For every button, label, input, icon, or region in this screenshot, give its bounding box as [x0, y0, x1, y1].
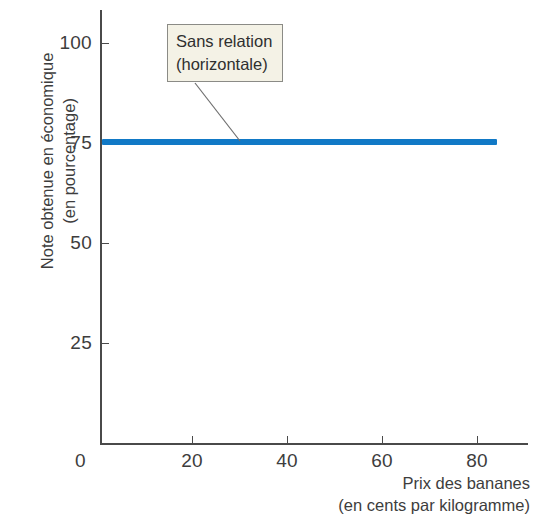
x-tick-label-80: 80	[466, 450, 488, 472]
y-tick-mark-50	[100, 243, 109, 244]
y-axis-title: Note obtenue en économique (en pourcenta…	[37, 0, 81, 326]
y-axis-line	[100, 10, 102, 445]
x-tick-mark-60	[382, 436, 383, 445]
y-tick-label-25: 25	[70, 332, 92, 354]
x-tick-mark-20	[192, 436, 193, 445]
x-tick-label-40: 40	[276, 450, 298, 472]
x-axis-title: Prix des bananes (en cents par kilogramm…	[240, 473, 530, 517]
x-axis-title-line-2: (en cents par kilogramme)	[240, 495, 530, 517]
x-tick-label-20: 20	[181, 450, 203, 472]
annotation-callout-no-relation: Sans relation (horizontale)	[167, 24, 283, 82]
annotation-line-2: (horizontale)	[176, 53, 274, 76]
series-line-sans-relation	[102, 139, 497, 145]
scatter-plot-figure: 100 75 50 25 0 20 40 60 80 Note obtenue …	[0, 0, 544, 518]
x-tick-label-60: 60	[371, 450, 393, 472]
x-axis-line	[100, 443, 528, 445]
y-axis-title-line-1: Note obtenue en économique	[37, 0, 59, 326]
y-tick-mark-25	[100, 343, 109, 344]
x-axis-title-line-1: Prix des bananes	[240, 473, 530, 495]
x-tick-mark-80	[477, 436, 478, 445]
x-tick-mark-40	[287, 436, 288, 445]
x-tick-label-0: 0	[75, 450, 86, 472]
y-tick-mark-100	[100, 43, 109, 44]
y-axis-title-line-2: (en pourcentage)	[59, 0, 81, 326]
annotation-line-1: Sans relation	[176, 30, 274, 53]
